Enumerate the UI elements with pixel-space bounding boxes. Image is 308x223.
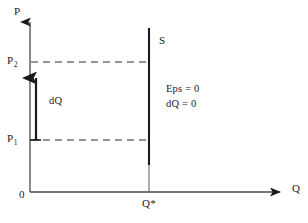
dq-arrow-label: dQ xyxy=(49,96,62,107)
quantity-tick-qstar-base: Q xyxy=(142,197,150,209)
quantity-change-note: dQ = 0 xyxy=(166,99,196,110)
diagram-canvas xyxy=(0,0,308,223)
quantity-axis-label: Q xyxy=(292,183,300,194)
quantity-tick-qstar: Q* xyxy=(142,198,156,209)
price-tick-p2: P2 xyxy=(7,55,17,66)
supply-curve-label: S xyxy=(159,35,165,46)
supply-demand-diagram: P Q 0 P2 P1 Q* dQ S Eps = 0 dQ = 0 xyxy=(0,0,308,223)
price-tick-p2-subscript: 2 xyxy=(14,60,18,69)
elasticity-note: Eps = 0 xyxy=(166,84,200,95)
price-tick-p1-base: P xyxy=(7,132,13,144)
price-axis-label: P xyxy=(14,6,20,17)
price-tick-p1-subscript: 1 xyxy=(14,138,18,147)
origin-label: 0 xyxy=(19,189,25,200)
price-tick-p2-base: P xyxy=(7,54,13,66)
quantity-tick-qstar-superscript: * xyxy=(150,197,156,209)
price-tick-p1: P1 xyxy=(7,133,17,144)
